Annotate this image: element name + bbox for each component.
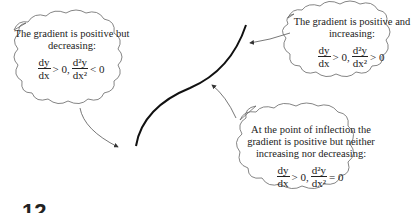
s-curve bbox=[136, 25, 246, 146]
annotation-convex: The gradient is positive and increasing:… bbox=[290, 16, 414, 69]
annotation-inflection: At the point of inflection the gradient … bbox=[242, 124, 380, 189]
arrow-bottom bbox=[212, 85, 236, 118]
second-derivative: d²ydx² bbox=[311, 164, 327, 189]
annotation-text: The gradient is positive but decreasing: bbox=[12, 28, 132, 52]
inflection-diagram: The gradient is positive but decreasing:… bbox=[0, 0, 419, 213]
second-derivative: d²ydx² bbox=[352, 44, 368, 69]
first-derivative: dydx bbox=[318, 44, 331, 69]
annotation-text: The gradient is positive and increasing: bbox=[290, 16, 414, 40]
clipped-page-text: 12 bbox=[22, 201, 46, 213]
annotation-text: At the point of inflection the gradient … bbox=[242, 124, 380, 160]
second-derivative: d²ydx² bbox=[72, 56, 88, 81]
annotation-concave: The gradient is positive but decreasing:… bbox=[12, 28, 132, 81]
derivative-conditions: dydx> 0,d²ydx²= 0 bbox=[242, 164, 380, 189]
derivative-conditions: dydx> 0,d²ydx²< 0 bbox=[12, 56, 132, 81]
first-derivative: dydx bbox=[277, 164, 290, 189]
arrow-left bbox=[80, 108, 118, 147]
derivative-conditions: dydx> 0,d²ydx²> 0 bbox=[290, 44, 414, 69]
first-derivative: dydx bbox=[38, 56, 51, 81]
